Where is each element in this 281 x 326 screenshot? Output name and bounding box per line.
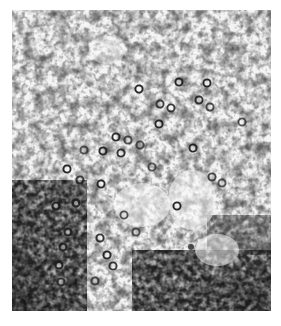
ring-lumen xyxy=(66,230,70,234)
ring-lumen xyxy=(197,98,201,102)
ring-lumen xyxy=(57,263,61,267)
ring-lumen xyxy=(175,204,179,208)
ring-lumen xyxy=(114,135,118,139)
ring-lumen xyxy=(208,105,212,109)
ring-lumen xyxy=(150,165,154,169)
ring-lumen xyxy=(93,279,97,283)
micrograph-canvas xyxy=(12,10,271,311)
ring-lumen xyxy=(65,167,69,171)
ring-lumen xyxy=(61,245,65,249)
ring-lumen xyxy=(78,178,82,182)
ring-lumen xyxy=(210,175,214,179)
ring-lumen xyxy=(157,122,161,126)
ring-lumen xyxy=(137,87,141,91)
micrograph-image xyxy=(12,10,271,311)
ring-lumen xyxy=(82,148,86,152)
ring-lumen xyxy=(119,151,123,155)
ring-lumen xyxy=(177,80,181,84)
ring-lumen xyxy=(220,181,224,185)
dense-granule xyxy=(188,244,194,250)
ring-lumen xyxy=(54,204,58,208)
ring-lumen xyxy=(158,102,162,106)
ring-lumen xyxy=(59,280,63,284)
ring-lumen xyxy=(134,230,138,234)
ring-lumen xyxy=(74,201,78,205)
ring-lumen xyxy=(101,149,105,153)
ring-lumen xyxy=(191,146,195,150)
ring-lumen xyxy=(122,213,126,217)
ring-lumen xyxy=(111,264,115,268)
ring-lumen xyxy=(99,182,103,186)
dense-region-lower-left xyxy=(12,168,87,311)
ring-lumen xyxy=(98,236,102,240)
ring-lumen xyxy=(105,253,109,257)
ring-lumen xyxy=(205,81,209,85)
ring-lumen xyxy=(126,138,130,142)
ring-lumen xyxy=(138,143,142,147)
ring-lumen xyxy=(169,106,173,110)
ring-lumen xyxy=(240,120,244,124)
